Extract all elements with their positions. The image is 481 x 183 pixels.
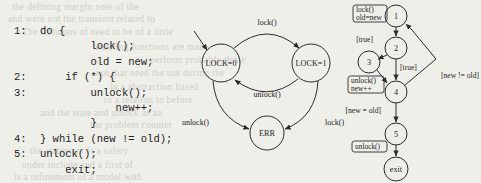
edge-lock0-to-lock1 bbox=[234, 34, 299, 48]
cfg-node-exit bbox=[384, 157, 408, 181]
cfg-action-box-2-line-1: unlock() bbox=[351, 76, 377, 85]
edge-label-unlock-err: unlock() bbox=[182, 118, 209, 127]
code-line: exit; bbox=[14, 163, 172, 178]
cfg-node-3 bbox=[358, 51, 380, 73]
code-line: } bbox=[14, 116, 172, 131]
cfg-edge-2-3 bbox=[378, 55, 387, 59]
code-line: 5:unlock(); bbox=[14, 147, 172, 162]
edge-label-lock-err: lock() bbox=[325, 118, 344, 127]
code-line-number: 2: bbox=[14, 70, 40, 85]
edge-lock1-to-lock0 bbox=[235, 79, 298, 92]
cfg-action-box-2: unlock() new++ bbox=[348, 76, 384, 93]
source-code-listing: 1:do { lock(); old = new;2: if (*) {3: u… bbox=[14, 24, 172, 178]
cfg-node-2-label: 2 bbox=[394, 44, 398, 53]
cfg-edge-label-new-ne-old: [new != old] bbox=[441, 71, 479, 80]
code-line-text: if (*) { bbox=[40, 71, 116, 83]
state-node-lock1-label: LOCK=1 bbox=[296, 59, 327, 68]
code-line-text: } bbox=[40, 117, 97, 129]
cfg-edge-3-4 bbox=[377, 70, 387, 83]
cfg-action-box-3-line-1: unlock() bbox=[355, 142, 381, 151]
code-line: 2: if (*) { bbox=[14, 70, 172, 85]
ghost-text-line: and were not the transient related to bbox=[8, 14, 155, 24]
cfg-edge-label-new-eq-old: [new = old] bbox=[346, 106, 382, 115]
code-line-text: new++; bbox=[40, 102, 153, 114]
code-line: lock(); bbox=[14, 39, 172, 54]
code-line-text: unlock(); bbox=[40, 148, 97, 160]
code-line-number: 5: bbox=[14, 147, 40, 162]
code-line-text: unlock(); bbox=[40, 87, 147, 99]
cfg-edge-label-true-down: [true] bbox=[400, 63, 417, 72]
cfg-node-3-label: 3 bbox=[367, 58, 371, 67]
edge-label-unlock: unlock() bbox=[253, 90, 280, 99]
cfg-action-box-1-line-1: lock() bbox=[356, 5, 374, 14]
cfg-action-box-2-line-2: new++ bbox=[351, 84, 372, 93]
code-line-text: } while (new != old); bbox=[40, 133, 172, 145]
cfg-node-5 bbox=[385, 123, 407, 145]
cfg-node-1-label: 1 bbox=[394, 12, 398, 21]
state-node-err-label: ERR bbox=[259, 129, 275, 138]
code-line: old = new; bbox=[14, 55, 172, 70]
ghost-text-line: the defining margin note of the bbox=[12, 2, 139, 12]
code-line: new++; bbox=[14, 101, 172, 116]
edge-label-lock: lock() bbox=[257, 18, 276, 27]
code-line-text: do { bbox=[40, 25, 65, 37]
code-line-text: lock(); bbox=[40, 40, 135, 52]
cfg-edge-4-1-backedge bbox=[405, 24, 436, 85]
code-line: 1:do { bbox=[14, 24, 172, 39]
scanned-figure: the defining margin note of theand were … bbox=[0, 0, 481, 183]
code-line: 3: unlock(); bbox=[14, 86, 172, 101]
cfg-node-exit-label: exit bbox=[390, 165, 403, 174]
code-line-number: 1: bbox=[14, 24, 40, 39]
cfg-node-1 bbox=[385, 5, 407, 27]
code-line-number: 3: bbox=[14, 86, 40, 101]
cfg-node-5-label: 5 bbox=[394, 130, 398, 139]
cfg-node-2 bbox=[385, 37, 407, 59]
code-line: 4:} while (new != old); bbox=[14, 132, 172, 147]
cfg-node-4-label: 4 bbox=[394, 88, 398, 97]
cfg-action-box-1: lock() old=new bbox=[353, 5, 387, 22]
code-line-number: 4: bbox=[14, 132, 40, 147]
cfg-action-box-3: unlock() bbox=[352, 141, 387, 152]
code-line-text: exit; bbox=[40, 164, 97, 176]
cfg-edge-label-true-left: [true] bbox=[356, 35, 373, 44]
code-line-text: old = new; bbox=[40, 56, 153, 68]
state-node-lock1 bbox=[292, 44, 330, 82]
state-node-err bbox=[250, 116, 284, 150]
edge-lock1-to-err bbox=[285, 81, 318, 129]
edge-lock0-to-err bbox=[213, 81, 249, 129]
cfg-action-box-1-line-2: old=new bbox=[356, 13, 383, 22]
cfg-node-4 bbox=[385, 81, 407, 103]
